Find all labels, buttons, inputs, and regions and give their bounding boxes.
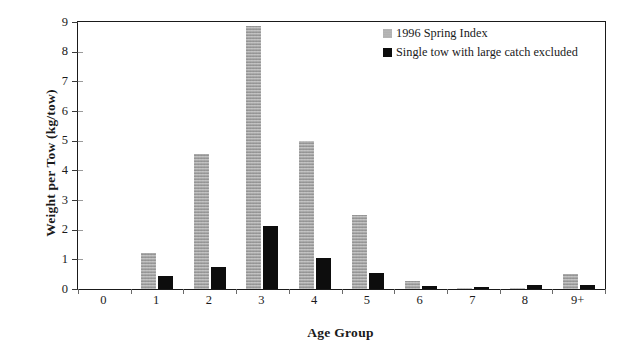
legend-swatch-icon (383, 29, 392, 38)
y-axis-tick-inner (78, 259, 83, 260)
bar (580, 285, 595, 289)
y-axis-tick-label: 7 (62, 74, 68, 89)
bar (563, 274, 578, 289)
y-axis-tick: 9 (72, 22, 78, 23)
y-axis-tick-label: 2 (62, 222, 68, 237)
x-axis-tick-label: 0 (83, 293, 123, 308)
bar (527, 285, 542, 289)
legend-item: Single tow with large catch excluded (383, 44, 578, 61)
bar (352, 215, 367, 289)
x-axis-tick (552, 289, 553, 294)
bar (246, 26, 261, 289)
x-axis-tick-label: 5 (347, 293, 387, 308)
bar (405, 281, 420, 289)
bar (316, 258, 331, 289)
y-axis-tick-inner (78, 230, 83, 231)
bar (510, 288, 525, 289)
y-axis-tick-inner (78, 111, 83, 112)
bar (194, 154, 209, 289)
y-axis-tick-label: 0 (62, 282, 68, 297)
legend-item: 1996 Spring Index (383, 25, 578, 42)
x-axis-tick (342, 289, 343, 294)
y-axis-tick-label: 5 (62, 133, 68, 148)
y-axis-tick-label: 9 (62, 15, 68, 30)
x-axis-title: Age Group (77, 325, 604, 341)
x-axis-tick (500, 289, 501, 294)
x-axis-tick-label: 8 (505, 293, 545, 308)
bar (299, 141, 314, 289)
y-axis-tick-label: 6 (62, 104, 68, 119)
legend-label: 1996 Spring Index (396, 25, 488, 42)
scan-edge-top (0, 0, 629, 3)
x-axis-tick (131, 289, 132, 294)
y-axis-tick-label: 4 (62, 163, 68, 178)
figure-canvas: Weight per Tow (kg/tow) 0123456789 01234… (0, 0, 629, 357)
bar (263, 226, 278, 289)
x-axis-tick (447, 289, 448, 294)
y-axis-tick-label: 3 (62, 193, 68, 208)
x-axis-tick-label: 4 (294, 293, 334, 308)
x-axis-tick-label: 7 (452, 293, 492, 308)
legend-label: Single tow with large catch excluded (396, 44, 578, 61)
x-axis-tick (78, 289, 79, 294)
legend-swatch-icon (383, 48, 392, 57)
y-axis-tick-inner (78, 200, 83, 201)
bar (474, 287, 489, 289)
y-axis-tick-label: 1 (62, 252, 68, 267)
x-axis-tick-label: 2 (189, 293, 229, 308)
x-axis-tick (394, 289, 395, 294)
chart-legend: 1996 Spring IndexSingle tow with large c… (383, 25, 578, 63)
y-axis-tick-inner (78, 170, 83, 171)
x-axis-tick (605, 289, 606, 294)
bar (211, 267, 226, 289)
bar (141, 253, 156, 289)
y-axis-title: Weight per Tow (kg/tow) (43, 33, 59, 293)
bar (422, 286, 437, 289)
bar (369, 273, 384, 289)
bar (457, 288, 472, 289)
x-axis-tick (289, 289, 290, 294)
x-axis-tick-label: 9+ (558, 293, 598, 308)
y-axis-tick-inner (78, 81, 83, 82)
bar (158, 276, 173, 289)
y-axis-tick-inner (78, 141, 83, 142)
x-axis-tick-label: 3 (241, 293, 281, 308)
y-axis-tick-inner (78, 52, 83, 53)
x-axis-tick (236, 289, 237, 294)
y-axis-tick-label: 8 (62, 44, 68, 59)
x-axis-tick-label: 1 (136, 293, 176, 308)
x-axis-tick (183, 289, 184, 294)
x-axis-tick-label: 6 (400, 293, 440, 308)
